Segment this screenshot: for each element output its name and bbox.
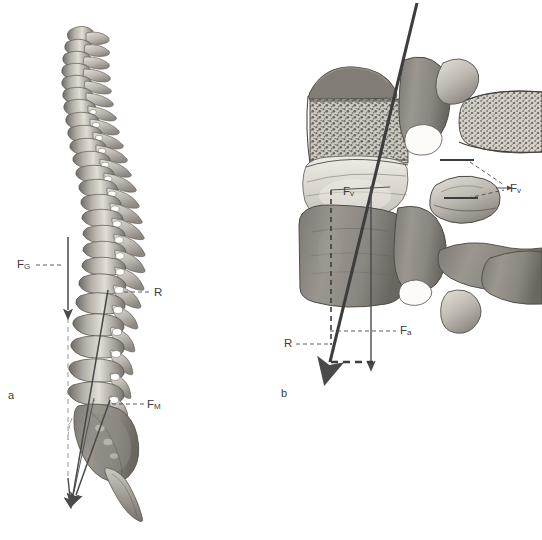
lamina-lower [482, 251, 542, 304]
label-fa: Fa [400, 324, 411, 337]
lumbar-vertebrae [68, 274, 141, 423]
fg-vector-tip [68, 478, 70, 498]
lamina-cancellous [459, 91, 542, 153]
spine-illustration [62, 26, 145, 521]
vertebral-foramen-lower [399, 280, 432, 305]
lamina-lower-body [482, 251, 542, 304]
superior-endplate-cap [309, 67, 397, 100]
lower-vertebral-body [299, 205, 404, 307]
anatomical-figure: FG R FM a Fv Fv Fa R b [0, 0, 542, 540]
label-r-panel-a: R [154, 286, 162, 299]
illustration-layer [0, 0, 542, 540]
vertebral-foramen-upper [405, 124, 442, 155]
label-fm: FM [147, 398, 161, 411]
label-fv-disc: Fv [343, 185, 354, 198]
label-r-panel-b: R [284, 337, 292, 350]
upper-vertebral-body [307, 67, 408, 164]
facet-joint-region [430, 176, 500, 223]
vector-angle-arc [68, 418, 72, 440]
inferior-articular-process [430, 176, 500, 223]
vertebra-illustration [299, 57, 542, 333]
inferior-process-knob [441, 290, 481, 333]
panel-label-b: b [281, 387, 287, 399]
lamina-upper [459, 91, 542, 153]
cervical-vertebrae [62, 26, 114, 107]
panel-label-a: a [8, 389, 14, 401]
caption-strip [0, 532, 542, 540]
label-fg: FG [17, 258, 30, 271]
thoracic-vertebrae [64, 99, 145, 290]
label-fv-facet: Fv [510, 182, 521, 195]
